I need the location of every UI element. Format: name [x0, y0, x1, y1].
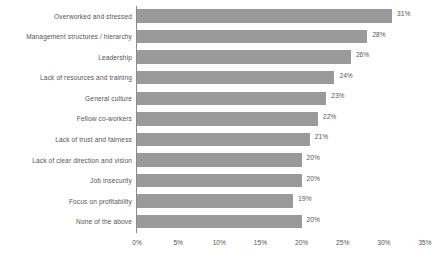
bar-rows: Overworked and stressed31%Management str… [0, 6, 432, 232]
category-label: Focus on profitability [0, 198, 132, 205]
bar-wrapper [137, 9, 392, 22]
x-axis-tick-label: 25% [336, 239, 349, 246]
bar-value-label: 31% [397, 10, 410, 17]
x-axis: 0%5%10%15%20%25%30%35% [137, 233, 425, 257]
bar-value-label: 26% [356, 51, 369, 58]
bar [137, 194, 293, 207]
bar-row: Job insecurity20% [0, 170, 432, 191]
category-label: General culture [0, 95, 132, 102]
category-label: Lack of clear direction and vision [0, 157, 132, 164]
category-label: Leadership [0, 54, 132, 61]
bar-row: General culture23% [0, 88, 432, 109]
bar-row: Lack of clear direction and vision20% [0, 150, 432, 171]
bar [137, 30, 367, 43]
bar-value-label: 24% [339, 72, 352, 79]
bar-wrapper [137, 92, 326, 105]
bar-wrapper [137, 112, 318, 125]
bar-value-label: 20% [307, 154, 320, 161]
bar [137, 112, 318, 125]
bar-row: Leadership26% [0, 47, 432, 68]
bar-wrapper [137, 71, 334, 84]
bar-wrapper [137, 194, 293, 207]
category-label: Job insecurity [0, 177, 132, 184]
bar-wrapper [137, 50, 351, 63]
bar [137, 215, 302, 228]
category-label: None of the above [0, 218, 132, 225]
bar-wrapper [137, 30, 367, 43]
x-axis-tick-label: 0% [132, 239, 142, 246]
bar-value-label: 20% [307, 175, 320, 182]
bar [137, 9, 392, 22]
bar-value-label: 28% [372, 31, 385, 38]
bar-row: Focus on profitability19% [0, 191, 432, 212]
category-label: Fellow co-workers [0, 115, 132, 122]
bar-wrapper [137, 174, 302, 187]
bar-value-label: 22% [323, 113, 336, 120]
bar [137, 92, 326, 105]
bar-value-label: 20% [307, 216, 320, 223]
bar [137, 133, 310, 146]
x-axis-tick-label: 30% [377, 239, 390, 246]
category-label: Management structures / hierarchy [0, 33, 132, 40]
category-label: Overworked and stressed [0, 13, 132, 20]
bar-value-label: 23% [331, 92, 344, 99]
bar-wrapper [137, 215, 302, 228]
bar-value-label: 21% [315, 133, 328, 140]
bar [137, 153, 302, 166]
bar-row: Fellow co-workers22% [0, 109, 432, 130]
bar-row: Management structures / hierarchy28% [0, 27, 432, 48]
x-axis-tick-label: 15% [254, 239, 267, 246]
bar-value-label: 19% [298, 195, 311, 202]
category-label: Lack of trust and fairness [0, 136, 132, 143]
bar [137, 174, 302, 187]
x-axis-tick-label: 5% [173, 239, 183, 246]
x-axis-tick-label: 20% [295, 239, 308, 246]
bar-row: None of the above20% [0, 211, 432, 232]
bar-row: Lack of resources and training24% [0, 68, 432, 89]
bar-wrapper [137, 133, 310, 146]
x-axis-tick-label: 10% [213, 239, 226, 246]
category-label: Lack of resources and training [0, 74, 132, 81]
bar [137, 71, 334, 84]
bar-row: Lack of trust and fairness21% [0, 129, 432, 150]
bar [137, 50, 351, 63]
bar-row: Overworked and stressed31% [0, 6, 432, 27]
x-axis-tick-label: 35% [418, 239, 431, 246]
bar-chart: Overworked and stressed31%Management str… [0, 0, 432, 266]
bar-wrapper [137, 153, 302, 166]
